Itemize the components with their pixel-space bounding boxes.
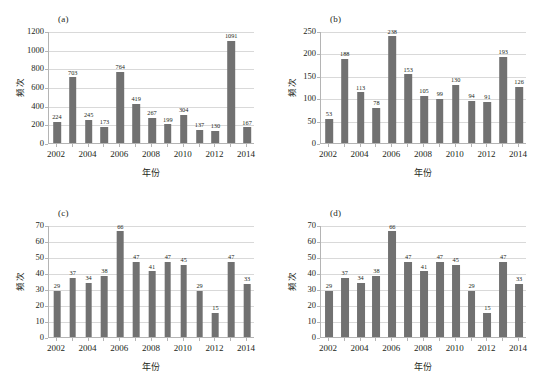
y-tick-label-c: 50 xyxy=(12,252,44,262)
x-tick-label-c: 2012 xyxy=(205,343,223,353)
bar-value-label: 34 xyxy=(85,275,91,281)
y-tick-label-a: 0 xyxy=(12,138,44,148)
x-tick-label-a: 2002 xyxy=(47,149,65,159)
x-tick-label-d: 2008 xyxy=(414,343,432,353)
chart-panel-b: (b)频次年份531881137823815310599130949119312… xyxy=(272,0,544,194)
bar-value-label: 66 xyxy=(389,224,395,230)
bar xyxy=(388,231,396,337)
x-tick-label-d: 2004 xyxy=(351,343,369,353)
bar xyxy=(341,59,349,143)
bar xyxy=(164,124,172,143)
x-tick-mark-a xyxy=(199,144,200,147)
x-tick-mark-d xyxy=(328,338,329,341)
bar xyxy=(101,276,108,337)
x-tick-mark-d xyxy=(518,338,519,341)
bar-slot: 38 xyxy=(369,226,385,337)
x-tick-label-a: 2012 xyxy=(205,149,223,159)
bar xyxy=(436,99,444,143)
bar-value-label: 419 xyxy=(131,96,140,102)
x-tick-mark-a xyxy=(214,144,215,147)
x-tick-label-d: 2012 xyxy=(477,343,495,353)
bar-slot: 94 xyxy=(464,32,480,143)
x-tick-mark-b xyxy=(455,144,456,147)
bar-value-label: 126 xyxy=(514,79,523,85)
bar-slot: 137 xyxy=(192,32,208,143)
bar-slot: 199 xyxy=(160,32,176,143)
bar-slot: 91 xyxy=(479,32,495,143)
bar xyxy=(165,262,172,337)
bar-slot: 224 xyxy=(49,32,65,143)
bar-value-label: 99 xyxy=(437,91,443,97)
x-tick-mark-b xyxy=(486,144,487,147)
x-tick-mark-a xyxy=(246,144,247,147)
bar-value-label: 764 xyxy=(116,64,125,70)
y-tick-mark-b xyxy=(317,144,320,145)
x-tick-label-b: 2008 xyxy=(414,149,432,159)
y-tick-label-b: 250 xyxy=(284,26,316,36)
bar xyxy=(515,87,523,143)
bar-slot: 15 xyxy=(479,226,495,337)
bar xyxy=(468,101,476,143)
bar xyxy=(515,284,523,337)
x-tick-label-a: 2008 xyxy=(142,149,160,159)
bar-value-label: 91 xyxy=(484,94,490,100)
x-tick-mark-c xyxy=(199,338,200,341)
bar-value-label: 137 xyxy=(195,122,204,128)
bar-slot: 37 xyxy=(337,226,353,337)
bar xyxy=(244,284,251,337)
x-tick-mark-c xyxy=(230,338,231,341)
y-tick-label-d: 0 xyxy=(284,332,316,342)
x-tick-mark-d xyxy=(407,338,408,341)
x-tick-mark-b xyxy=(407,144,408,147)
y-tick-label-a: 400 xyxy=(12,101,44,111)
y-tick-label-a: 1000 xyxy=(12,45,44,55)
y-tick-label-c: 60 xyxy=(12,236,44,246)
bar-value-label: 130 xyxy=(211,123,220,129)
bar-slot: 47 xyxy=(128,226,144,337)
x-tick-label-a: 2004 xyxy=(79,149,97,159)
bar-slot: 47 xyxy=(223,226,239,337)
bar-value-label: 37 xyxy=(70,270,76,276)
bar-slot: 245 xyxy=(81,32,97,143)
y-tick-mark-c xyxy=(45,338,48,339)
bar-value-label: 1091 xyxy=(225,33,238,39)
bar xyxy=(389,36,397,143)
x-tick-mark-c xyxy=(119,338,120,341)
y-tick-label-d: 20 xyxy=(284,300,316,310)
y-tick-mark-c xyxy=(45,242,48,243)
y-tick-mark-c xyxy=(45,226,48,227)
x-tick-label-b: 2006 xyxy=(382,149,400,159)
bar-slot: 99 xyxy=(432,32,448,143)
x-tick-label-c: 2008 xyxy=(142,343,160,353)
x-tick-mark-d xyxy=(423,338,424,341)
bar-slot: 15 xyxy=(207,226,223,337)
x-tick-label-c: 2014 xyxy=(237,343,255,353)
bar xyxy=(499,57,507,143)
bar-value-label: 45 xyxy=(181,257,187,263)
plot-area-b: 5318811378238153105991309491193126 xyxy=(320,32,526,144)
bar xyxy=(117,72,125,143)
bar xyxy=(499,262,507,337)
x-tick-mark-c xyxy=(103,338,104,341)
x-tick-label-a: 2010 xyxy=(174,149,192,159)
bar xyxy=(180,115,188,143)
x-tick-label-a: 2006 xyxy=(110,149,128,159)
y-tick-label-a: 800 xyxy=(12,63,44,73)
bar xyxy=(341,278,349,337)
bar-value-label: 47 xyxy=(165,254,171,260)
y-tick-mark-a xyxy=(45,32,48,33)
y-tick-mark-a xyxy=(45,144,48,145)
x-tick-mark-d xyxy=(455,338,456,341)
bar-slot: 47 xyxy=(432,226,448,337)
bar xyxy=(196,130,204,143)
x-tick-mark-c xyxy=(88,338,89,341)
y-tick-label-a: 600 xyxy=(12,82,44,92)
x-tick-mark-d xyxy=(375,338,376,341)
bar-slot: 45 xyxy=(448,226,464,337)
y-tick-mark-d xyxy=(317,242,320,243)
panel-tag-c: (c) xyxy=(58,208,69,218)
bar xyxy=(420,271,428,337)
bar-slot: 38 xyxy=(97,226,113,337)
panel-tag-a: (a) xyxy=(58,14,69,24)
x-tick-mark-a xyxy=(230,144,231,147)
